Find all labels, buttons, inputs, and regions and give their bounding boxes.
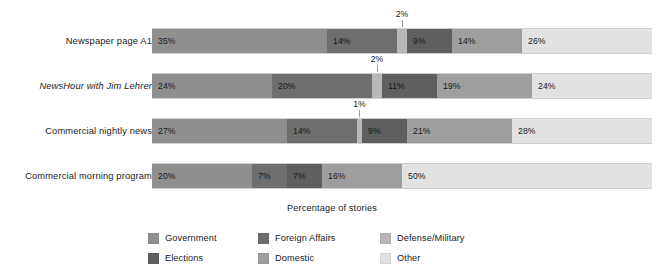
callout-value: 1%	[340, 99, 380, 109]
segment-value-label: 24%	[532, 81, 556, 91]
legend-label: Elections	[165, 253, 203, 263]
bar-segment[interactable]: 2%	[372, 74, 382, 98]
bar-segment[interactable]: 14%	[327, 29, 397, 53]
bar-segment[interactable]: 24%	[152, 74, 272, 98]
segment-value-label: 14%	[327, 36, 351, 46]
chart-row: NewsHour with Jim Lehrer24%20%2%11%19%24…	[0, 73, 664, 99]
bar-segment[interactable]: 20%	[152, 164, 252, 188]
legend-item[interactable]: Elections	[148, 248, 258, 268]
segment-value-label: 9%	[362, 126, 381, 136]
segment-value-label: 28%	[512, 126, 536, 136]
bar-segment[interactable]: 16%	[322, 164, 402, 188]
chart-row: Commercial morning program20%7%7%16%50%	[0, 163, 664, 189]
callout-leader-line	[359, 110, 360, 117]
segment-value-label: 14%	[287, 126, 311, 136]
segment-value-label: 20%	[152, 171, 176, 181]
x-axis-title: Percentage of stories	[0, 203, 664, 213]
legend-swatch	[380, 233, 391, 244]
segment-value-label: 16%	[322, 171, 346, 181]
stacked-bar[interactable]: 20%7%7%16%50%	[152, 163, 652, 189]
segment-value-label: 7%	[252, 171, 271, 181]
chart-row: Commercial nightly news27%14%1%9%21%28%	[0, 118, 664, 144]
segment-value-label: 35%	[152, 36, 176, 46]
legend-item[interactable]: Other	[380, 248, 510, 268]
bar-segment[interactable]: 19%	[437, 74, 532, 98]
bar-segment[interactable]: 24%	[532, 74, 652, 98]
bar-segment[interactable]: 21%	[407, 119, 512, 143]
segment-value-label: 21%	[407, 126, 431, 136]
legend-item[interactable]: Domestic	[258, 248, 380, 268]
callout-leader-line	[377, 65, 378, 72]
legend-label: Domestic	[275, 253, 314, 263]
stacked-bar[interactable]: 35%14%2%9%14%26%	[152, 28, 652, 54]
bar-segment[interactable]: 7%	[252, 164, 287, 188]
segment-value-label: 27%	[152, 126, 176, 136]
bar-segment[interactable]: 9%	[362, 119, 407, 143]
bar-segment[interactable]: 14%	[287, 119, 357, 143]
bar-segment[interactable]: 28%	[512, 119, 652, 143]
legend-item[interactable]: Defense/Military	[380, 228, 510, 248]
segment-value-label: 14%	[452, 36, 476, 46]
segment-value-label: 26%	[522, 36, 546, 46]
segment-value-label: 7%	[287, 171, 306, 181]
callout-value: 2%	[382, 9, 422, 19]
segment-callout-label: 2%	[357, 54, 397, 72]
callout-value: 2%	[357, 54, 397, 64]
bar-segment[interactable]: 11%	[382, 74, 437, 98]
bar-segment[interactable]: 27%	[152, 119, 287, 143]
chart-row: Newspaper page A135%14%2%9%14%26%	[0, 28, 664, 54]
category-label: NewsHour with Jim Lehrer	[39, 81, 152, 91]
chart-legend: GovernmentForeign AffairsDefense/Militar…	[148, 228, 510, 268]
legend-label: Government	[165, 233, 217, 243]
legend-item[interactable]: Government	[148, 228, 258, 248]
stacked-bar[interactable]: 27%14%1%9%21%28%	[152, 118, 652, 144]
bar-segment[interactable]: 2%	[397, 29, 407, 53]
stacked-bar-chart: 2%Newspaper page A135%14%2%9%14%26%2%New…	[0, 0, 664, 274]
category-label: Commercial nightly news	[45, 126, 152, 136]
legend-swatch	[148, 253, 159, 264]
bar-segment[interactable]: 7%	[287, 164, 322, 188]
category-label: Commercial morning program	[25, 171, 152, 181]
legend-swatch	[148, 233, 159, 244]
segment-value-label: 24%	[152, 81, 176, 91]
segment-value-label: 19%	[437, 81, 461, 91]
bar-segment[interactable]: 20%	[272, 74, 372, 98]
bar-segment[interactable]: 35%	[152, 29, 327, 53]
legend-item[interactable]: Foreign Affairs	[258, 228, 380, 248]
segment-value-label: 11%	[382, 81, 405, 91]
bar-segment[interactable]: 26%	[522, 29, 652, 53]
bar-segment[interactable]: 9%	[407, 29, 452, 53]
stacked-bar[interactable]: 24%20%2%11%19%24%	[152, 73, 652, 99]
legend-swatch	[380, 253, 391, 264]
segment-value-label: 20%	[272, 81, 296, 91]
legend-swatch	[258, 253, 269, 264]
category-label: Newspaper page A1	[66, 36, 152, 46]
segment-callout-label: 2%	[382, 9, 422, 27]
segment-callout-label: 1%	[340, 99, 380, 117]
bar-segment[interactable]: 14%	[452, 29, 522, 53]
segment-value-label: 9%	[407, 36, 426, 46]
callout-leader-line	[402, 20, 403, 27]
legend-swatch	[258, 233, 269, 244]
legend-label: Foreign Affairs	[275, 233, 336, 243]
legend-label: Defense/Military	[397, 233, 464, 243]
legend-label: Other	[397, 253, 420, 263]
bar-segment[interactable]: 50%	[402, 164, 652, 188]
segment-value-label: 50%	[402, 171, 426, 181]
